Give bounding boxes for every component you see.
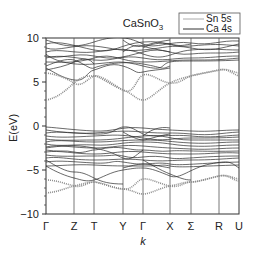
svg-text:T: T (91, 220, 98, 232)
legend-label-ca4s: Ca 4s (206, 23, 232, 34)
y-tick-label: −5 (26, 164, 39, 176)
x-axis-label: k (140, 235, 146, 247)
svg-text:R: R (215, 220, 223, 232)
legend: Sn 5s Ca 4s (179, 13, 240, 34)
svg-text:Y: Y (119, 220, 127, 232)
svg-text:Γ: Γ (140, 220, 146, 232)
svg-text:Z: Z (71, 220, 78, 232)
band-structure-chart: 10 5 0 −5 −10 E(eV) Γ Z T Y Γ X Σ R U k … (0, 0, 253, 258)
svg-text:Γ: Γ (43, 220, 49, 232)
svg-text:U: U (235, 220, 243, 232)
svg-text:X: X (166, 220, 174, 232)
svg-text:Σ: Σ (188, 220, 195, 232)
plot-frame (46, 38, 239, 214)
y-tick-label: 5 (33, 76, 39, 88)
band-lines-dark (46, 38, 239, 184)
chart-title: CaSnO3 (123, 17, 164, 32)
y-tick-label: −10 (20, 208, 39, 220)
y-tick-label: 10 (27, 32, 39, 44)
y-axis-label: E(eV) (7, 114, 19, 142)
y-axis-ticks (42, 38, 46, 214)
y-tick-label: 0 (33, 120, 39, 132)
k-point-labels: Γ Z T Y Γ X Σ R U (43, 220, 243, 232)
